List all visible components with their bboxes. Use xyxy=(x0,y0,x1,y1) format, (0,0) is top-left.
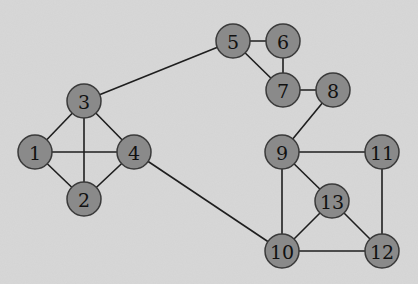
node-label: 13 xyxy=(320,191,344,213)
node-label: 7 xyxy=(277,80,289,102)
node-1: 1 xyxy=(18,135,52,169)
node-12: 12 xyxy=(365,234,399,268)
node-label: 2 xyxy=(78,189,90,211)
node-7: 7 xyxy=(266,73,300,107)
node-8: 8 xyxy=(316,73,350,107)
background-texture xyxy=(0,0,418,284)
node-10: 10 xyxy=(265,234,299,268)
node-11: 11 xyxy=(365,135,399,169)
node-label: 10 xyxy=(270,241,294,263)
node-label: 5 xyxy=(227,31,239,53)
node-label: 8 xyxy=(327,80,339,102)
node-label: 11 xyxy=(370,142,394,164)
node-2: 2 xyxy=(67,182,101,216)
node-6: 6 xyxy=(266,24,300,58)
node-13: 13 xyxy=(315,184,349,218)
graph-diagram: 12345678910111213 xyxy=(0,0,418,284)
node-5: 5 xyxy=(216,24,250,58)
node-label: 6 xyxy=(277,31,289,53)
node-label: 1 xyxy=(29,142,41,164)
node-label: 9 xyxy=(276,142,288,164)
node-9: 9 xyxy=(265,135,299,169)
node-label: 3 xyxy=(78,91,90,113)
node-3: 3 xyxy=(67,84,101,118)
graph-svg: 12345678910111213 xyxy=(0,0,418,284)
node-4: 4 xyxy=(117,135,151,169)
node-label: 12 xyxy=(370,241,394,263)
node-label: 4 xyxy=(128,142,140,164)
